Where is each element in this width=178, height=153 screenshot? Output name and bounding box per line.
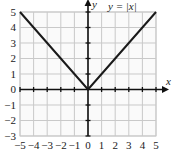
y-axis-arrowhead	[85, 0, 92, 6]
equation-label: y = |x|	[108, 1, 137, 12]
y-tick-label: −1	[4, 100, 16, 111]
x-tick-label: 5	[148, 140, 164, 151]
y-tick-label: 3	[11, 38, 17, 49]
y-tick-label: 2	[11, 53, 17, 64]
plot-canvas	[0, 0, 178, 153]
x-axis-label: x	[166, 76, 171, 87]
y-tick-label: 0	[11, 84, 17, 95]
y-axis-label: y	[92, 0, 97, 10]
absolute-value-graph-figure: y x y = |x| −3−2−1012345 −5−4−3−2−101234…	[0, 0, 178, 153]
y-tick-label: 5	[11, 7, 17, 18]
x-axis-arrowhead	[162, 86, 169, 93]
y-tick-label: 1	[11, 69, 17, 80]
y-tick-label: 4	[11, 22, 17, 33]
y-tick-label: −2	[4, 115, 16, 126]
